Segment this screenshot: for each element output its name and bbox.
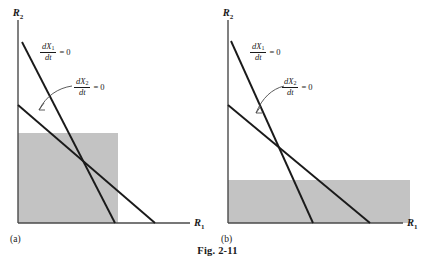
figure-container: R2 R1 (a) dX1 dt = 0 dX2 dt = 0	[0, 0, 435, 268]
shaded-region-b	[228, 180, 410, 223]
fraction-numerator: dX1	[250, 42, 266, 52]
axis-label-r2-a: R2	[12, 7, 24, 21]
fraction-dx2-a: dX2 dt	[74, 77, 90, 97]
isocline-label-dx1-b: dX1 dt = 0	[250, 42, 281, 62]
numerator-subscript: 2	[85, 80, 88, 86]
equals-zero: = 0	[301, 83, 312, 92]
isocline-label-dx1-a: dX1 dt = 0	[40, 42, 71, 62]
numerator-subscript: 1	[261, 45, 264, 51]
axis-label-r1-a: R1	[193, 217, 205, 231]
fraction-denominator: dt	[43, 53, 54, 62]
fraction-numerator: dX2	[282, 77, 298, 87]
fraction-numerator: dX2	[74, 77, 90, 87]
equals-zero: = 0	[269, 48, 280, 57]
leader-line-b	[256, 86, 284, 113]
panel-caption-b: (b)	[221, 234, 232, 245]
numerator-subscript: 1	[51, 45, 54, 51]
fraction-dx1-b: dX1 dt	[250, 42, 266, 62]
equals-zero: = 0	[93, 83, 104, 92]
figure-caption: Fig. 2-11	[0, 245, 435, 256]
fraction-dx1-a: dX1 dt	[40, 42, 56, 62]
fraction-dx2-b: dX2 dt	[282, 77, 298, 97]
equals-zero: = 0	[59, 48, 70, 57]
isocline-label-dx2-b: dX2 dt = 0	[282, 77, 313, 97]
fraction-denominator: dt	[253, 53, 264, 62]
panel-a: R2 R1 (a)	[0, 0, 218, 245]
fraction-denominator: dt	[285, 88, 296, 97]
axis-label-r1-b: R1	[406, 217, 418, 231]
panel-caption-a: (a)	[10, 234, 21, 245]
isocline-label-dx2-a: dX2 dt = 0	[74, 77, 105, 97]
panel-b: R2 R1 (b)	[218, 0, 435, 245]
fraction-denominator: dt	[77, 88, 88, 97]
numerator-subscript: 2	[293, 80, 296, 86]
fraction-numerator: dX1	[40, 42, 56, 52]
axis-label-r2-b: R2	[222, 7, 234, 21]
